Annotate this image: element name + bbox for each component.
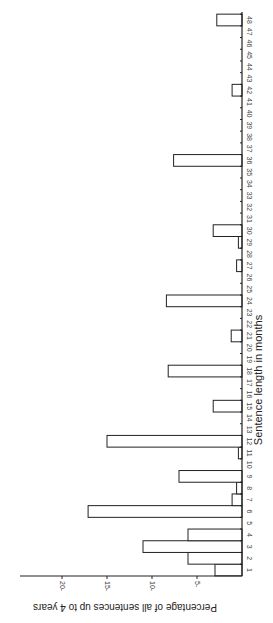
category-label: 38: [246, 133, 253, 141]
category-label: 4: [246, 533, 253, 537]
bar-9: [179, 471, 242, 483]
y-axis-label: Percentage of all sentences up to 4 year…: [33, 602, 217, 613]
bar-30: [213, 225, 242, 237]
category-label: 37: [246, 145, 253, 153]
category-label: 31: [246, 215, 253, 223]
bar-24: [166, 295, 242, 307]
category-label: 9: [246, 474, 253, 478]
category-label: 33: [246, 192, 253, 200]
bar-36: [174, 155, 242, 167]
value-tick-label: 5-: [194, 581, 201, 588]
bar-15: [213, 400, 242, 412]
category-label: 28: [246, 250, 253, 258]
bar-6: [88, 506, 242, 518]
bar-1: [215, 564, 242, 576]
value-tick-label: 20-: [59, 581, 66, 592]
category-label: 2: [246, 556, 253, 560]
category-label: 11: [246, 449, 253, 456]
category-label: 35: [246, 168, 253, 176]
value-ticks: 5-10-15-20-: [59, 576, 201, 592]
category-label: 29: [246, 238, 253, 246]
bar-48: [217, 14, 242, 26]
category-label: 43: [246, 75, 253, 83]
category-label: 42: [246, 86, 253, 94]
bars-group: [88, 14, 242, 576]
bar-4: [188, 529, 242, 541]
category-label: 24: [246, 297, 253, 305]
category-label: 5: [246, 521, 253, 525]
x-axis-label: Sentence length in months: [252, 314, 264, 445]
category-label: 1: [246, 568, 253, 572]
bar-18: [168, 365, 242, 377]
category-label: 41: [246, 98, 253, 106]
value-tick-label: 15-: [104, 581, 111, 592]
category-label: 26: [246, 274, 253, 282]
bar-8: [237, 482, 242, 494]
category-label: 34: [246, 180, 253, 188]
bar-27: [237, 260, 242, 272]
bar-2: [188, 552, 242, 564]
category-label: 48: [246, 16, 253, 24]
bar-12: [107, 435, 242, 447]
value-tick-label: 10-: [149, 581, 156, 592]
category-label: 46: [246, 40, 253, 48]
bar-chart: 1234567891011121314151617181920212223242…: [0, 0, 273, 623]
category-label: 3: [246, 545, 253, 549]
category-label: 47: [246, 28, 253, 36]
bar-7: [232, 494, 242, 506]
category-label: 40: [246, 110, 253, 118]
category-label: 30: [246, 227, 253, 235]
bar-42: [232, 84, 242, 96]
category-label: 39: [246, 121, 253, 129]
category-label: 27: [246, 262, 253, 270]
bar-3: [143, 541, 242, 553]
category-label: 45: [246, 51, 253, 59]
category-label: 6: [246, 510, 253, 514]
category-labels: 1234567891011121314151617181920212223242…: [246, 16, 253, 572]
category-label: 8: [246, 486, 253, 490]
category-label: 32: [246, 203, 253, 211]
bar-21: [231, 330, 242, 342]
category-label: 7: [246, 498, 253, 502]
category-label: 25: [246, 285, 253, 293]
category-label: 44: [246, 63, 253, 71]
category-label: 10: [246, 461, 253, 469]
category-label: 36: [246, 157, 253, 165]
